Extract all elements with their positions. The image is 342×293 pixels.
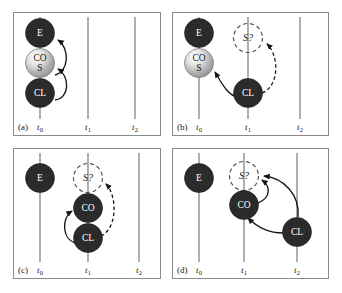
panel-d-node-e-label: E: [196, 173, 202, 183]
panel-d-node-s-unknown-label: S?: [239, 170, 249, 181]
figure-container: E CO S CL (a) t0 t1 t2 E CO S S? CL (b) …: [0, 0, 342, 293]
panel-b: E CO S S? CL (b) t0 t1 t2: [173, 13, 329, 136]
panel-a: E CO S CL (a) t0 t1 t2: [14, 13, 161, 136]
panel-a-node-cl-label: CL: [34, 88, 46, 98]
panel-b-node-cl-label: CL: [242, 88, 254, 98]
panel-d-tag: (d): [177, 265, 188, 275]
panel-d: E S? CO CL (d) t0 t1 t2: [173, 149, 329, 279]
panel-b-tag: (b): [177, 122, 188, 132]
panel-c-tag: (c): [18, 265, 28, 275]
panel-d-node-cl-label: CL: [291, 227, 303, 237]
panel-c-node-e-label: E: [37, 173, 43, 183]
panel-c-node-co-label: CO: [81, 203, 94, 213]
panel-c: E S? CO CL (c) t0 t1 t2: [14, 149, 161, 279]
panel-a-node-cos-label2: S: [37, 63, 42, 73]
panel-c-node-s-unknown-label: S?: [83, 172, 93, 183]
panel-b-node-cos-label2: S: [196, 63, 201, 73]
panel-a-node-e-label: E: [37, 28, 43, 38]
panel-d-node-co-label: CO: [237, 200, 250, 210]
figure-svg: E CO S CL (a) t0 t1 t2 E CO S S? CL (b) …: [0, 0, 342, 293]
panel-c-node-cl-label: CL: [82, 233, 94, 243]
panel-a-node-cos-label: CO: [33, 53, 46, 63]
panel-b-node-e-label: E: [196, 28, 202, 38]
panel-b-node-s-unknown-label: S?: [243, 32, 253, 43]
panel-b-node-cos-label: CO: [192, 53, 205, 63]
panel-a-tag: (a): [18, 122, 28, 132]
